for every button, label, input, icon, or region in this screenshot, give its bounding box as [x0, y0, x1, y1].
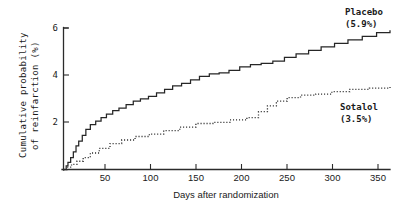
placebo-label-line2: (5.9%): [345, 19, 378, 29]
y-axis-title-line1: Cumulative probability: [18, 32, 28, 158]
series-group: [64, 30, 391, 169]
x-tick-label-150: 150: [188, 172, 204, 183]
y-tick-label-6: 6: [53, 23, 58, 33]
x-tick-label-100: 100: [143, 172, 159, 183]
x-tick-label-250: 250: [279, 172, 295, 183]
axes-group: [62, 28, 390, 171]
y-ticks-group: 6 4 2: [53, 23, 69, 127]
y-tick-label-2: 2: [53, 117, 58, 127]
figure-container: 6 4 2 50 100 150 200 250 300 350 Day: [0, 0, 406, 211]
reinfarction-step-chart: 6 4 2 50 100 150 200 250 300 350 Day: [0, 0, 406, 211]
placebo-annotation: Placebo (5.9%): [345, 7, 383, 29]
x-tick-label-50: 50: [100, 172, 111, 183]
placebo-step-curve: [64, 30, 391, 169]
sotalol-label-line1: Sotalol: [340, 102, 378, 112]
x-tick-label-350: 350: [370, 172, 386, 183]
x-tick-label-300: 300: [325, 172, 341, 183]
sotalol-annotation: Sotalol (3.5%): [340, 102, 378, 124]
y-axis-title-line2: of reinfarction (%): [30, 41, 40, 150]
y-tick-label-4: 4: [53, 70, 58, 80]
x-axis-title: Days after randomization: [173, 189, 279, 200]
x-ticks-group: 50 100 150 200 250 300 350: [100, 164, 386, 183]
sotalol-step-curve: [64, 87, 391, 170]
x-tick-label-200: 200: [234, 172, 250, 183]
sotalol-label-line2: (3.5%): [340, 114, 373, 124]
placebo-label-line1: Placebo: [345, 7, 383, 17]
